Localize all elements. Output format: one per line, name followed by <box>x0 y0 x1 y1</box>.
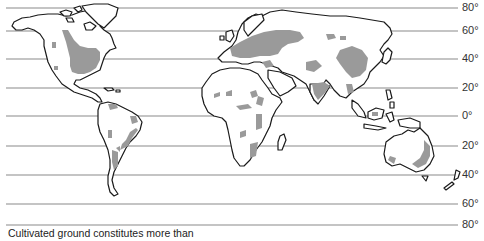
latitude-label-20n: 20° <box>462 82 479 93</box>
caribbean-islands <box>104 88 120 92</box>
legend-caption: Cultivated ground constitutes more than <box>8 227 194 239</box>
philippines-islands <box>386 90 394 108</box>
japan-landmass <box>382 48 392 64</box>
latitude-label-80n: 80° <box>462 2 479 13</box>
latitude-label-80s: 80° <box>462 219 479 230</box>
new-zealand-landmass <box>444 170 460 190</box>
madagascar-landmass <box>278 134 286 150</box>
latitude-label-60s: 60° <box>462 198 479 209</box>
british-isles-landmass <box>220 30 234 42</box>
indonesia-islands <box>352 100 420 130</box>
world-map <box>0 0 484 241</box>
latitude-label-equator: 0° <box>462 110 473 121</box>
latitude-label-20s: 20° <box>462 140 479 151</box>
latitude-label-40s: 40° <box>462 169 479 180</box>
latitude-label-60n: 60° <box>462 25 479 36</box>
africa-landmass <box>202 68 282 166</box>
tasmania-landmass <box>422 176 428 181</box>
latitude-label-40n: 40° <box>462 53 479 64</box>
